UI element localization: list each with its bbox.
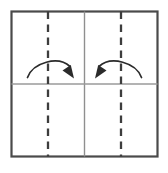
fold-diagram: Paper folding step diagram	[0, 0, 168, 173]
fold-diagram-canvas: Paper folding step diagram	[0, 0, 168, 173]
